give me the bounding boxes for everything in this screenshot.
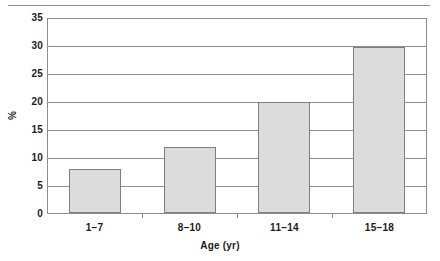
y-tick-label: 15 <box>9 125 43 135</box>
x-axis-title: Age (yr) <box>0 240 440 251</box>
y-tick-label: 0 <box>9 209 43 219</box>
y-tick-label: 20 <box>9 97 43 107</box>
y-axis-title: % <box>7 111 18 120</box>
x-tick-label: 1–7 <box>47 222 142 233</box>
x-tick <box>142 214 143 218</box>
bar-15-18 <box>353 47 405 213</box>
bar-11-14 <box>258 102 310 213</box>
y-tick-label: 10 <box>9 153 43 163</box>
y-tick-label: 5 <box>9 181 43 191</box>
x-tick <box>237 214 238 218</box>
bar-1-7 <box>69 169 121 213</box>
x-tick <box>332 214 333 218</box>
x-tick-label: 15–18 <box>332 222 427 233</box>
x-tick-label: 11–14 <box>237 222 332 233</box>
bars-group <box>48 19 426 213</box>
bar-chart-figure: % 35 30 25 20 15 10 5 0 1–7 <box>0 0 440 261</box>
top-divider-rule <box>8 5 430 6</box>
plot-area <box>47 18 427 214</box>
x-tick-label: 8–10 <box>142 222 237 233</box>
y-tick-label: 25 <box>9 69 43 79</box>
bar-8-10 <box>164 147 216 214</box>
y-tick-label: 35 <box>9 13 43 23</box>
y-tick-label: 30 <box>9 41 43 51</box>
